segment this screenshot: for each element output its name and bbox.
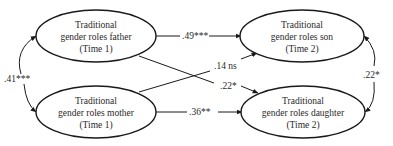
node-son: Traditional gender roles son (Time 2) (240, 10, 364, 62)
node-daughter-line1: Traditional (282, 96, 324, 106)
node-son-line1: Traditional (281, 20, 323, 30)
node-father-line1: Traditional (75, 20, 117, 30)
coef-mother-son: .14 ns (214, 61, 237, 71)
covariance-arrow-mother-father (24, 84, 36, 112)
path-father-daughter-segment (139, 56, 214, 83)
node-mother-line3: (Time 1) (79, 120, 112, 131)
coef-father-daughter: .22* (220, 81, 237, 91)
node-daughter-line2: gender roles daughter (262, 108, 345, 118)
node-daughter-line3: (Time 2) (286, 120, 319, 131)
node-mother: Traditional gender roles mother (Time 1) (36, 86, 156, 138)
covariance-label-parents: .41*** (4, 74, 30, 84)
covariance-arrow-father-mother (19, 36, 36, 74)
path-diagram: .41*** .22* .49*** .36** .22* .14 ns Tra… (0, 0, 393, 146)
node-father-line3: (Time 1) (79, 44, 112, 55)
node-son-line3: (Time 2) (285, 44, 318, 55)
node-daughter: Traditional gender roles daughter (Time … (241, 86, 365, 138)
covariance-label-children: .22* (363, 70, 380, 80)
path-father-daughter-arrow (241, 86, 258, 93)
path-mother-son-segment (139, 71, 210, 92)
covariance-arrow-daughter-son (365, 82, 374, 112)
coef-mother-daughter: .36** (189, 107, 211, 117)
coef-father-son: .49*** (182, 31, 208, 41)
node-mother-line2: gender roles mother (58, 108, 135, 118)
node-father: Traditional gender roles father (Time 1) (36, 10, 156, 62)
node-son-line2: gender roles son (271, 32, 334, 42)
path-mother-son-arrow (241, 53, 257, 59)
node-father-line2: gender roles father (60, 32, 132, 42)
covariance-arrow-son-daughter (364, 36, 375, 66)
node-mother-line1: Traditional (75, 96, 117, 106)
